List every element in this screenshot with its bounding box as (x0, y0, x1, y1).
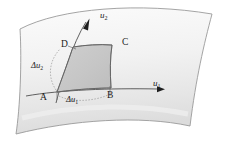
delta-u2-symbol: Δu (31, 60, 40, 70)
point-label-b: B (107, 91, 113, 101)
surface-patch-figure: u2 u1 Δu2 Δu1 A B C D (0, 0, 225, 146)
delta-u1-symbol: Δu (66, 94, 75, 104)
increment-label-delta-u2: Δu2 (31, 61, 43, 71)
delta-u1-subscript: 1 (75, 99, 78, 105)
figure-canvas (0, 0, 225, 146)
point-label-c: C (122, 38, 128, 48)
point-label-a: A (40, 93, 47, 103)
increment-label-delta-u1: Δu1 (66, 95, 78, 105)
delta-u2-subscript: 2 (40, 65, 43, 71)
axis-label-u1: u1 (153, 79, 161, 89)
point-label-d: D (61, 40, 68, 50)
surface-body (16, 8, 212, 134)
axis-label-u1-subscript: 1 (158, 83, 161, 89)
axis-label-u2-subscript: 2 (105, 15, 108, 21)
axis-label-u1-secondary: u2 (100, 11, 108, 21)
